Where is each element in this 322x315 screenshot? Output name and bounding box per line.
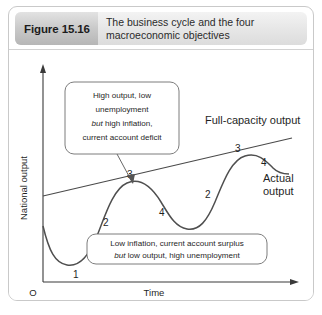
actual-output-label-line-1: Actual [263, 172, 294, 184]
x-axis-arrowhead [290, 279, 299, 285]
phase-label-1-first: 1 [73, 269, 79, 280]
figure-number-badge: Figure 15.16 [15, 12, 98, 45]
figure-title-line-1: The business cycle and the four [106, 16, 301, 29]
phase-label-3-second: 3 [235, 143, 241, 154]
figure-header: Figure 15.16 The business cycle and the … [9, 7, 313, 48]
phase-label-4-second: 4 [261, 157, 267, 168]
phase-label-4-first: 4 [159, 207, 165, 218]
figure-card: Figure 15.16 The business cycle and the … [8, 6, 314, 301]
full-capacity-output-label: Full-capacity output [205, 114, 300, 126]
chart-panel: National output Time O 1 2 3 4 1 2 3 4 F… [9, 50, 313, 301]
y-axis-arrowhead [40, 64, 46, 73]
phase-label-2-second: 2 [205, 189, 211, 200]
peak-callout-line-4: current account deficit [82, 133, 162, 142]
phase-label-2-first: 2 [103, 217, 109, 228]
full-capacity-output-label-line-1: Full-capacity output [205, 114, 300, 126]
x-axis-label: Time [144, 287, 165, 298]
trough-callout: Low inflation, current account surplus b… [87, 234, 267, 264]
header-strip: Figure 15.16 The business cycle and the … [15, 12, 307, 45]
x-axis [43, 279, 299, 285]
figure-title: The business cycle and the four macroeco… [98, 12, 307, 42]
peak-callout-line-1: High output, low [93, 91, 151, 100]
peak-callout-line-3: but high inflation, [91, 119, 152, 128]
trough-callout-line-1: Low inflation, current account surplus [110, 239, 244, 248]
peak-callout-line-2: unemployment [95, 105, 149, 114]
origin-label: O [29, 287, 36, 298]
y-axis-label: National output [18, 156, 29, 220]
figure-title-line-2: macroeconomic objectives [106, 29, 301, 42]
business-cycle-chart: National output Time O 1 2 3 4 1 2 3 4 F… [9, 50, 314, 301]
actual-output-label: Actual output [263, 172, 294, 197]
actual-output-label-line-2: output [263, 185, 294, 197]
trough-callout-line-2: but low output, high unemployment [114, 251, 240, 260]
y-axis [40, 64, 46, 282]
